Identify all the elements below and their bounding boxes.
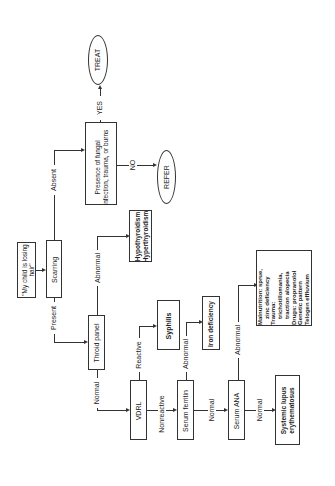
node-ana: Serum ANA bbox=[228, 380, 245, 440]
edge-present-h bbox=[54, 342, 86, 343]
node-refer-label: REFER bbox=[163, 156, 171, 198]
node-thyroid-label: Throid panel bbox=[93, 315, 101, 371]
label-ana-normal: Normal bbox=[256, 395, 264, 425]
node-start: "My child is losing hair" bbox=[17, 242, 36, 298]
label-vdrl-reactive: Reactive bbox=[135, 338, 143, 372]
node-sle-label: Systemic lupus erythematosus bbox=[280, 377, 295, 445]
node-presence-label: Presence of fungal infection, trauma, or… bbox=[94, 128, 109, 208]
node-start-label: "My child is losing hair" bbox=[21, 242, 35, 298]
node-thyroid-result-label: Hypothyroidism Hyperthyroidism bbox=[134, 208, 149, 266]
node-vdrl: VDRL bbox=[130, 380, 147, 440]
node-other-causes: Malnutrition: sprue, zinc deficiency Tra… bbox=[256, 250, 312, 326]
node-treat: TREAT bbox=[88, 35, 108, 85]
arrow-icon bbox=[153, 163, 157, 167]
edge-absent bbox=[54, 150, 55, 240]
node-other-causes-label: Malnutrition: sprue, zinc deficiency Tra… bbox=[257, 251, 311, 325]
node-refer: REFER bbox=[157, 150, 176, 204]
label-present: Present bbox=[50, 302, 58, 334]
node-scarring-label: Scarring bbox=[51, 241, 59, 299]
node-scarring: Scarring bbox=[46, 240, 62, 298]
label-ferritin-abnormal: Abnormal bbox=[182, 336, 190, 372]
edge-thyroid-abnormal-h bbox=[97, 236, 128, 237]
node-presence: Presence of fungal infection, trauma, or… bbox=[85, 122, 117, 205]
node-syphilis-label: Syphilis bbox=[165, 302, 173, 350]
label-thyroid-abnormal: Abnormal bbox=[94, 250, 102, 286]
node-vdrl-label: VDRL bbox=[135, 382, 143, 440]
label-vdrl-nonreactive: Nonreactive bbox=[158, 392, 166, 436]
node-sle: Systemic lupus erythematosus bbox=[275, 375, 300, 445]
label-yes: YES bbox=[96, 96, 104, 120]
arrow-icon bbox=[98, 85, 102, 89]
label-ana-abnormal: Abnormal bbox=[234, 322, 242, 358]
label-no: NO bbox=[129, 158, 137, 172]
node-iron-label: Iron deficiency bbox=[207, 297, 215, 351]
edge-absent-h bbox=[54, 150, 83, 151]
node-ana-label: Serum ANA bbox=[233, 382, 241, 440]
node-ferritin: Serum ferritin bbox=[177, 380, 194, 440]
node-treat-label: TREAT bbox=[94, 39, 102, 81]
label-thyroid-normal: Normal bbox=[93, 378, 101, 408]
node-thyroid-result: Hypothyroidism Hyperthyroidism bbox=[129, 210, 152, 262]
edge-thyroid-normal-h bbox=[97, 410, 128, 411]
label-ferritin-normal: Normal bbox=[208, 395, 216, 425]
node-thyroid: Throid panel bbox=[88, 315, 105, 370]
node-ferritin-label: Serum ferritin bbox=[182, 382, 190, 440]
label-absent: Absent bbox=[50, 165, 58, 195]
node-iron: Iron deficiency bbox=[202, 296, 220, 350]
node-syphilis: Syphilis bbox=[157, 300, 180, 350]
